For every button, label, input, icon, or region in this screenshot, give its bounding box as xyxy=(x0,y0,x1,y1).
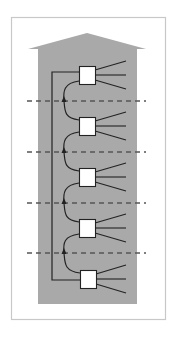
node-box-1 xyxy=(80,67,96,85)
node-box-4 xyxy=(80,220,96,238)
node-box-3 xyxy=(80,169,96,187)
node-box-5 xyxy=(81,271,97,289)
node-box-2 xyxy=(80,118,96,136)
diagram-canvas xyxy=(0,0,180,337)
building-riser-diagram xyxy=(0,0,180,337)
